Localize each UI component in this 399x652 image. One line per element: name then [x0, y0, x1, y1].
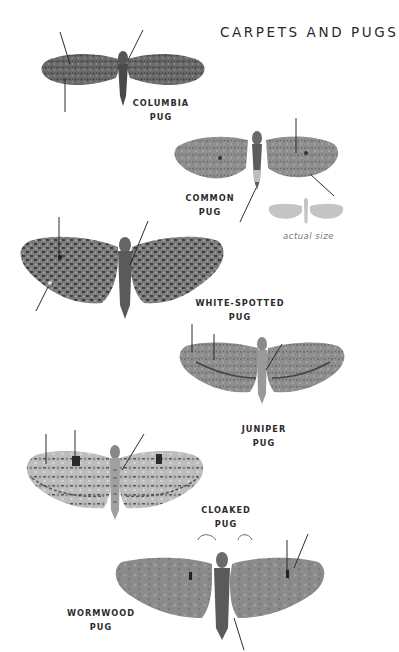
species-name: COMMON: [180, 191, 240, 205]
actual-size-caption: actual size: [283, 231, 334, 241]
wormwood-pug-moth-image: [112, 532, 328, 650]
cloaked-pug-moth-image: [20, 430, 210, 530]
page-title: CARPETS AND PUGS: [220, 24, 399, 40]
white-spotted-pug-label: WHITE-SPOTTED PUG: [195, 296, 285, 324]
juniper-pug-moth-image: [176, 322, 348, 414]
wormwood-pug-label: WORMWOOD PUG: [66, 606, 136, 634]
species-name: COLUMBIA: [131, 96, 191, 110]
species-suffix: PUG: [66, 620, 136, 634]
species-name: WORMWOOD: [66, 606, 136, 620]
white-spotted-pug-moth-image: [14, 215, 224, 325]
species-name: WHITE-SPOTTED: [195, 296, 285, 310]
species-name: JUNIPER: [234, 422, 294, 436]
cloaked-pug-label: CLOAKED PUG: [196, 503, 256, 531]
species-suffix: PUG: [196, 517, 256, 531]
juniper-pug-label: JUNIPER PUG: [234, 422, 294, 450]
actual-size-silhouette: [268, 198, 344, 224]
species-suffix: PUG: [234, 436, 294, 450]
species-name: CLOAKED: [196, 503, 256, 517]
